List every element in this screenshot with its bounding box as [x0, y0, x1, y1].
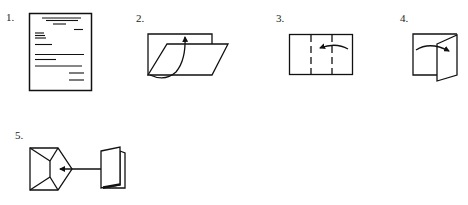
- fold-arrow-icon: [320, 45, 348, 49]
- step-5-insert-envelope: [30, 147, 125, 190]
- step-3-fold-thirds: [290, 35, 353, 75]
- step-4-fold-flap: [413, 34, 457, 81]
- folding-diagram: [0, 0, 468, 205]
- folded-letter: [101, 147, 125, 188]
- step-2-fold-up: [148, 34, 228, 78]
- step-1-letter-page: [30, 14, 92, 91]
